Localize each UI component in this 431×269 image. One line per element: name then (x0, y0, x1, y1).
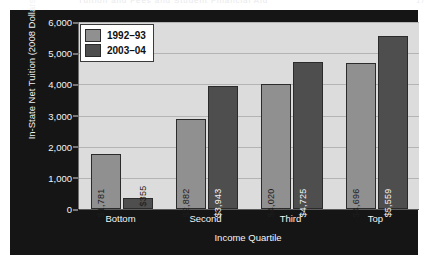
bar[interactable]: $5,559 (378, 36, 408, 209)
legend-item: 2003–04 (85, 43, 146, 58)
x-axis-tick-labels: BottomSecondThirdTop (78, 213, 418, 229)
page-running-header: Tuition and Fees and Student Financial A… (0, 0, 431, 9)
running-header-title: Tuition and Fees and Student Financial A… (78, 0, 268, 5)
x-axis-tick-label: Top (368, 213, 383, 224)
page-number: 17 (416, 0, 425, 5)
x-axis-title: Income Quartile (78, 232, 418, 243)
x-axis-tick-label: Third (280, 213, 302, 224)
x-axis-tick-label: Bottom (105, 213, 135, 224)
legend-label: 1992–93 (107, 30, 146, 41)
axis-baseline (79, 209, 419, 210)
y-axis-tick-label: 5,000 (48, 48, 72, 59)
y-axis-tick-label: 2,000 (48, 141, 72, 152)
y-axis-tick-label: 6,000 (48, 17, 72, 28)
chart-legend: 1992–93 2003–04 (80, 24, 154, 62)
legend-item: 1992–93 (85, 28, 146, 43)
bar[interactable]: $4,696 (346, 63, 376, 209)
bar[interactable]: $4,020 (261, 84, 291, 209)
legend-swatch-icon (85, 44, 101, 57)
y-axis-tick-label: 0 (67, 204, 72, 215)
bar[interactable]: $1,781 (91, 154, 121, 210)
bar[interactable]: $355 (123, 198, 153, 209)
bar-value-label: $355 (138, 186, 148, 207)
legend-label: 2003–04 (107, 45, 146, 56)
bar[interactable]: $4,725 (293, 62, 323, 209)
bar-group: $4,020$4,725 (261, 22, 323, 209)
y-axis-tick-label: 3,000 (48, 110, 72, 121)
bar[interactable]: $3,943 (208, 86, 238, 209)
bar[interactable]: $2,882 (176, 119, 206, 209)
y-axis-tick-label: 1,000 (48, 172, 72, 183)
bar-group: $4,696$5,559 (346, 22, 408, 209)
x-axis-tick-label: Second (189, 213, 221, 224)
y-axis-tick-labels: 01,0002,0003,0004,0005,0006,000 (34, 10, 78, 255)
bar-group: $2,882$3,943 (176, 22, 238, 209)
bar-chart-figure: In-State Net Tuition (2008 Dollars) 01,0… (10, 10, 418, 255)
y-axis-tick-label: 4,000 (48, 79, 72, 90)
legend-swatch-icon (85, 29, 101, 42)
